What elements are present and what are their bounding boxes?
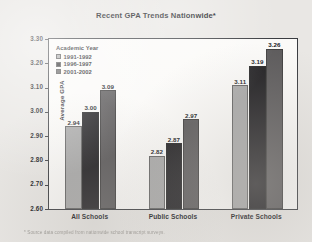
- y-axis-tick-mark: [45, 209, 49, 210]
- bar-value-label: 2.94: [67, 119, 79, 126]
- chart-title: Recent GPA Trends Nationwide*: [0, 11, 312, 20]
- chart-footnote: * Source data compiled from nationwide s…: [24, 230, 294, 236]
- legend-entries: 1991-19921996-19972001-2002: [56, 54, 98, 75]
- square-swatch-icon: [56, 69, 61, 74]
- legend-title: Academic Year: [56, 45, 98, 51]
- square-swatch-icon: [56, 62, 61, 67]
- bar-private-schools-2001-2002[interactable]: 3.26: [266, 49, 283, 209]
- chart-legend: Academic Year 1991-19921996-19972001-200…: [56, 45, 98, 76]
- bar-all-schools-1991-1992[interactable]: 2.94: [65, 126, 82, 209]
- x-axis-label-public-schools: Public Schools: [128, 213, 218, 220]
- y-axis-tick-label: 3.20: [30, 59, 43, 66]
- bar-value-label: 3.19: [251, 58, 263, 65]
- bar-group-private-schools: 3.113.193.26: [232, 39, 283, 209]
- y-axis-tick-label: 2.60: [30, 205, 43, 212]
- x-axis-label-all-schools: All Schools: [45, 213, 135, 220]
- bar-all-schools-1996-1997[interactable]: 3.00: [82, 112, 99, 209]
- bar-private-schools-1996-1997[interactable]: 3.19: [249, 66, 266, 209]
- bar-value-label: 3.00: [85, 104, 97, 111]
- y-axis-tick-label: 2.70: [30, 180, 43, 187]
- legend-item-label: 1991-1992: [64, 54, 92, 60]
- chart-figure: Recent GPA Trends Nationwide* Average GP…: [0, 0, 312, 242]
- bar-public-schools-2001-2002[interactable]: 2.97: [183, 119, 200, 209]
- bar-group-public-schools: 2.822.872.97: [149, 39, 200, 209]
- y-axis-tick-label: 2.80: [30, 156, 43, 163]
- bar-value-label: 2.97: [185, 112, 197, 119]
- plot-area: Average GPA 3.303.203.103.002.902.802.70…: [48, 38, 298, 210]
- legend-item-1996-1997[interactable]: 1996-1997: [56, 61, 98, 67]
- legend-item-label: 1996-1997: [64, 61, 92, 67]
- bar-private-schools-1991-1992[interactable]: 3.11: [232, 85, 249, 209]
- y-axis-tick-label: 2.90: [30, 132, 43, 139]
- bar-public-schools-1991-1992[interactable]: 2.82: [149, 156, 166, 209]
- bar-value-label: 2.82: [151, 148, 163, 155]
- bar-value-label: 3.09: [102, 83, 114, 90]
- x-axis-label-private-schools: Private Schools: [211, 213, 301, 220]
- legend-item-2001-2002[interactable]: 2001-2002: [56, 69, 98, 75]
- bar-public-schools-1996-1997[interactable]: 2.87: [166, 143, 183, 209]
- y-axis-tick-label: 3.30: [30, 35, 43, 42]
- legend-item-1991-1992[interactable]: 1991-1992: [56, 54, 98, 60]
- bar-value-label: 3.26: [268, 41, 280, 48]
- bar-all-schools-2001-2002[interactable]: 3.09: [100, 90, 117, 209]
- bar-value-label: 2.87: [168, 136, 180, 143]
- legend-item-label: 2001-2002: [64, 69, 92, 75]
- y-axis-tick-label: 3.10: [30, 83, 43, 90]
- y-axis-tick-label: 3.00: [30, 107, 43, 114]
- square-swatch-icon: [56, 54, 61, 59]
- bar-value-label: 3.11: [234, 78, 246, 85]
